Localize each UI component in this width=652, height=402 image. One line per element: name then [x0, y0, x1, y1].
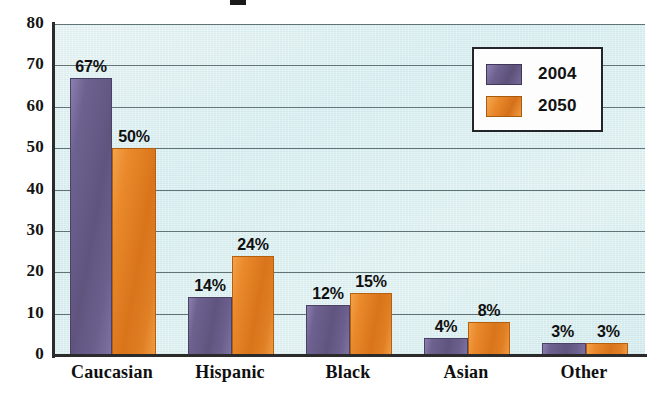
bar-caucasian-2050: 50% — [112, 148, 156, 355]
y-tick-label: 80 — [0, 13, 44, 33]
bar-value-label: 4% — [435, 318, 458, 336]
y-tick-label: 10 — [0, 303, 44, 323]
x-label-other: Other — [514, 362, 652, 383]
bar-value-label: 12% — [312, 285, 343, 303]
bar-caucasian-2004: 67% — [70, 78, 112, 355]
y-tick-label: 70 — [0, 54, 44, 74]
purple-swatch-icon — [486, 64, 522, 85]
legend-label-2050: 2050 — [538, 96, 577, 116]
bar-black-2050: 15% — [350, 293, 392, 355]
y-axis-line — [52, 22, 55, 358]
y-tick-label: 20 — [0, 261, 44, 281]
cropped-title-fragment — [230, 0, 246, 5]
y-tick-label: 30 — [0, 220, 44, 240]
legend: 2004 2050 — [472, 47, 603, 132]
y-tick-label: 0 — [0, 344, 44, 364]
bar-value-label: 24% — [237, 236, 268, 254]
bar-value-label: 67% — [75, 58, 106, 76]
bar-asian-2004: 4% — [424, 338, 468, 355]
x-axis-category-labels: CaucasianHispanicBlackAsianOther — [54, 362, 645, 396]
bar-value-label: 3% — [597, 323, 620, 341]
legend-item-2004: 2004 — [474, 58, 601, 90]
y-tick-label: 50 — [0, 137, 44, 157]
bar-chart: 67%50%14%24%12%15%4%8%3%3% 0102030405060… — [0, 0, 652, 402]
bar-value-label: 50% — [118, 128, 149, 146]
bar-hispanic-2050: 24% — [232, 256, 274, 355]
bar-hispanic-2004: 14% — [188, 297, 232, 355]
bar-black-2004: 12% — [306, 305, 350, 355]
bar-value-label: 3% — [551, 323, 574, 341]
y-axis-tick-labels: 01020304050607080 — [0, 0, 46, 402]
bar-asian-2050: 8% — [468, 322, 510, 355]
bar-value-label: 8% — [478, 302, 501, 320]
y-tick-label: 60 — [0, 96, 44, 116]
bar-value-label: 14% — [194, 277, 225, 295]
bar-value-label: 15% — [355, 273, 386, 291]
legend-item-2050: 2050 — [474, 90, 601, 122]
y-tick-label: 40 — [0, 179, 44, 199]
gridline — [54, 24, 645, 25]
x-axis-line — [52, 354, 647, 357]
orange-swatch-icon — [486, 96, 522, 117]
legend-label-2004: 2004 — [538, 64, 577, 84]
